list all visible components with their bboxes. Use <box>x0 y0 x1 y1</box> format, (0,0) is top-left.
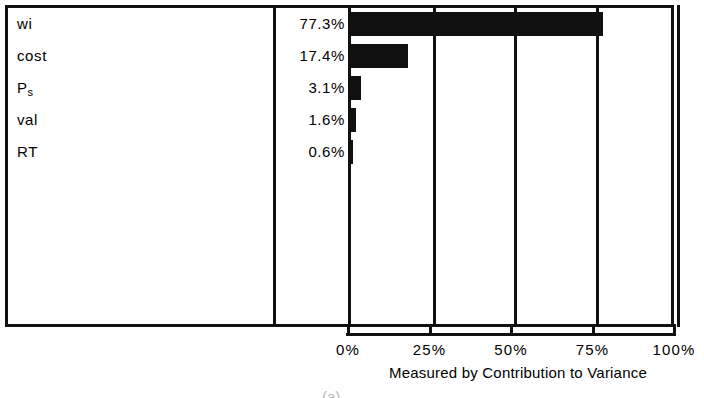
row-bar <box>351 44 408 68</box>
row-value-label: 0.6% <box>276 136 345 168</box>
row-bar-track <box>351 72 671 104</box>
chart-row: wi77.3% <box>8 8 671 40</box>
row-bar-track <box>351 8 671 40</box>
row-label: Ps <box>17 72 33 104</box>
x-axis-tick-label: 25% <box>413 341 446 358</box>
chart-rows: wi77.3%cost17.4%Ps3.1%val1.6%RT0.6% <box>8 8 671 168</box>
row-value-label: 1.6% <box>276 104 345 136</box>
chart-row: cost17.4% <box>8 40 671 72</box>
chart-row: RT0.6% <box>8 136 671 168</box>
row-bar-track <box>351 136 671 168</box>
row-label-subscript: s <box>28 86 34 98</box>
gridline <box>677 5 680 327</box>
row-label: cost <box>17 40 47 72</box>
row-bar-track <box>351 40 671 72</box>
row-bar <box>351 140 353 164</box>
row-value-label: 3.1% <box>276 72 345 104</box>
row-label: wi <box>17 8 32 40</box>
chart-row: Ps3.1% <box>8 72 671 104</box>
row-bar-track <box>351 104 671 136</box>
x-axis-tick-label: 75% <box>576 341 609 358</box>
chart-frame: wi77.3%cost17.4%Ps3.1%val1.6%RT0.6% <box>5 5 674 327</box>
row-bar <box>351 108 356 132</box>
row-value-label: 77.3% <box>276 8 345 40</box>
x-axis: 0%25%50%75%100% <box>348 333 674 334</box>
row-label: val <box>17 104 38 136</box>
figure-root: wi77.3%cost17.4%Ps3.1%val1.6%RT0.6% 0%25… <box>0 0 704 398</box>
figure-caption: (a) <box>322 389 340 398</box>
x-axis-tick-label: 100% <box>653 341 696 358</box>
row-bar <box>351 76 361 100</box>
x-axis-tick <box>347 324 350 336</box>
x-axis-tick-label: 50% <box>494 341 527 358</box>
row-bar <box>351 12 603 36</box>
row-value-label: 17.4% <box>276 40 345 72</box>
x-axis-tick-label: 0% <box>336 341 360 358</box>
chart-row: val1.6% <box>8 104 671 136</box>
x-axis-tick <box>429 324 432 336</box>
x-axis-tick <box>592 324 595 336</box>
x-axis-caption: Measured by Contribution to Variance <box>348 364 688 381</box>
x-axis-tick <box>673 324 676 336</box>
x-axis-tick <box>510 324 513 336</box>
row-label: RT <box>17 136 38 168</box>
